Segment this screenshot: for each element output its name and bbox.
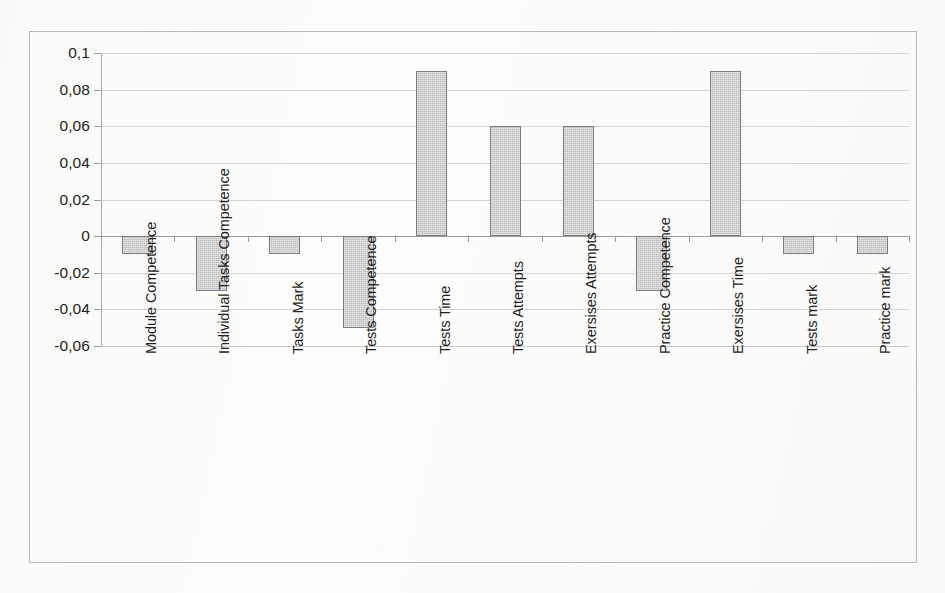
y-axis-tick-label: -0,06 (54, 338, 90, 354)
x-axis-tick (395, 236, 396, 242)
x-axis-tick (762, 236, 763, 242)
x-axis-tick (689, 236, 690, 242)
bar (857, 236, 888, 254)
y-axis-tick (94, 126, 101, 127)
x-axis-category-label: Module Competence (144, 222, 159, 354)
x-axis-category-label: Practice Competence (658, 217, 673, 354)
x-axis-tick (468, 236, 469, 242)
scanned-page-background: 0,10,080,060,040,020-0,02-0,04-0,06 Modu… (0, 0, 945, 593)
x-axis-tick (174, 236, 175, 242)
y-axis-tick-label: 0 (81, 228, 90, 244)
x-axis-tick (321, 236, 322, 242)
y-axis-tick (94, 309, 101, 310)
x-axis-tick (101, 236, 102, 242)
x-axis-tick (248, 236, 249, 242)
gridline (101, 90, 909, 91)
x-axis-tick (542, 236, 543, 242)
y-axis-tick (94, 200, 101, 201)
y-axis-tick (94, 236, 101, 237)
x-axis-category-labels: Module CompetenceIndividual Tasks Compet… (101, 346, 909, 556)
y-axis-tick (94, 90, 101, 91)
y-axis-tick (94, 273, 101, 274)
chart-frame: 0,10,080,060,040,020-0,02-0,04-0,06 Modu… (29, 31, 917, 563)
x-axis-category-label: Tests Competence (364, 236, 379, 355)
y-axis-tick (94, 163, 101, 164)
x-axis-tick (615, 236, 616, 242)
x-axis-category-label: Individual Tasks Competence (217, 168, 232, 354)
x-axis-category-label: Tasks Mark (291, 282, 306, 354)
y-axis-tick-label: 0,06 (59, 119, 90, 135)
bar (416, 71, 447, 236)
x-axis-category-label: Tests Time (438, 286, 453, 354)
y-axis-tick-label: -0,04 (54, 302, 90, 318)
x-axis-category-label: Exersises Attempts (584, 233, 599, 355)
bar (783, 236, 814, 254)
x-axis-category-label: Tests Attempts (511, 261, 526, 354)
y-axis-tick (94, 346, 101, 347)
y-axis-tick-label: 0,02 (59, 192, 90, 208)
x-axis-category-label: Practice mark (878, 267, 893, 354)
y-axis-tick-label: 0,08 (59, 82, 90, 98)
bar (269, 236, 300, 254)
bar (490, 126, 521, 236)
y-axis-tick (94, 53, 101, 54)
gridline (101, 53, 909, 54)
y-axis-tick-label: -0,02 (54, 265, 90, 281)
bar (710, 71, 741, 236)
x-axis-category-label: Exersises Time (731, 257, 746, 354)
y-axis-tick-label: 0,1 (68, 45, 90, 61)
x-axis-category-label: Tests mark (805, 285, 820, 354)
x-axis-tick (836, 236, 837, 242)
x-axis-tick (909, 236, 910, 242)
bar (563, 126, 594, 236)
y-axis-tick-label: 0,04 (59, 155, 90, 171)
